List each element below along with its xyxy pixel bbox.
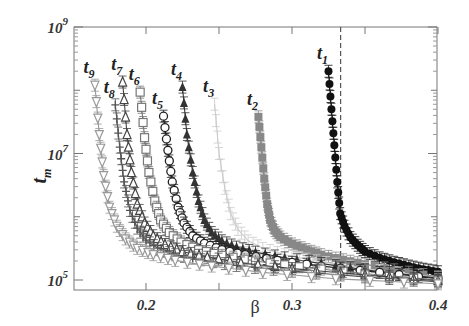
series-label-t3: t3 [203, 76, 214, 100]
marker-open-triangle-down [102, 182, 110, 191]
marker-filled-circle [329, 129, 337, 137]
marker-filled-square [254, 113, 262, 121]
series-label-t6: t6 [129, 64, 140, 88]
error-bar [212, 115, 220, 127]
marker-plus [117, 155, 125, 163]
error-bar [219, 171, 227, 183]
marker-open-triangle [126, 155, 134, 164]
series-t1 [325, 65, 443, 278]
marker-plus [114, 129, 122, 137]
marker-open-square [145, 168, 153, 176]
error-bar [223, 191, 231, 203]
x-tick-label: 0.2 [137, 297, 156, 313]
marker-filled-square [256, 133, 264, 141]
marker-open-circle [165, 157, 173, 165]
marker-open-square [143, 157, 151, 165]
marker-open-triangle-down [92, 98, 100, 107]
marker-open-circle [160, 112, 168, 120]
marker-open-square [138, 103, 146, 111]
marker-open-triangle-down [100, 172, 108, 181]
x-axis-title: β [250, 297, 259, 317]
marker-filled-triangle [189, 167, 197, 176]
series-label-t9: t9 [83, 57, 94, 81]
series-label-t1: t1 [317, 43, 328, 67]
marker-open-square [136, 88, 144, 96]
marker-plus [111, 101, 119, 109]
x-tick-label: 0.4 [429, 297, 448, 313]
marker-open-circle [162, 135, 170, 143]
svg-text:tm: tm [28, 169, 54, 184]
series-label-t2: t2 [247, 89, 258, 113]
error-bar [244, 235, 252, 247]
marker-plus [122, 187, 130, 195]
marker-open-triangle [120, 95, 128, 104]
marker-filled-circle [325, 67, 333, 75]
marker-plus [119, 166, 127, 174]
marker-plus [120, 178, 128, 186]
marker-filled-triangle [179, 82, 187, 91]
marker-open-circle [161, 124, 169, 132]
y-tick-label: 107 [48, 142, 69, 163]
marker-filled-circle [325, 80, 333, 88]
marker-open-triangle [122, 112, 130, 121]
marker-open-triangle-down [95, 131, 103, 140]
marker-filled-circle [326, 93, 334, 101]
y-axis-title: tm [28, 169, 54, 184]
marker-open-triangle [127, 167, 135, 176]
marker-filled-circle [335, 199, 343, 207]
marker-open-triangle-down [97, 144, 105, 153]
marker-open-triangle-down [91, 81, 99, 90]
marker-filled-circle [328, 117, 336, 125]
series-line [329, 71, 439, 272]
marker-filled-square [258, 154, 266, 162]
marker-filled-circle [333, 178, 341, 186]
marker-open-triangle [123, 130, 131, 139]
series-label-t5: t5 [152, 88, 163, 112]
marker-filled-circle [330, 141, 338, 149]
series-label-t8: t8 [104, 77, 115, 101]
error-bar [221, 182, 229, 194]
marker-open-triangle-down [104, 193, 112, 202]
chart-root: 105107109 0.20.30.4 t1t2t3t4t5t6t7t8t9 β… [0, 0, 469, 326]
y-tick-label: 109 [48, 15, 69, 36]
marker-filled-triangle [185, 142, 193, 151]
series-line [258, 117, 438, 277]
marker-open-square [139, 119, 147, 127]
marker-filled-circle [332, 166, 340, 174]
series-group [91, 65, 442, 290]
marker-filled-triangle [181, 114, 189, 123]
error-bar [225, 199, 233, 211]
marker-filled-triangle [183, 130, 191, 139]
marker-open-square [141, 134, 149, 142]
marker-filled-square [257, 143, 265, 151]
error-bar [237, 227, 245, 239]
y-tick-label: 105 [48, 268, 69, 289]
marker-open-triangle [131, 189, 139, 198]
marker-open-circle [164, 146, 172, 154]
marker-filled-circle [334, 189, 342, 197]
marker-open-triangle [124, 142, 132, 151]
marker-open-triangle-down [94, 114, 102, 123]
error-bar [214, 131, 222, 143]
marker-plus [113, 115, 121, 123]
marker-filled-triangle [180, 98, 188, 107]
marker-open-triangle [129, 178, 137, 187]
marker-open-triangle-down [98, 158, 106, 167]
series-label-t4: t4 [171, 59, 182, 83]
error-bar [215, 148, 223, 160]
x-tick-label: 0.3 [283, 297, 302, 313]
marker-open-square [149, 187, 157, 195]
marker-open-square [142, 145, 150, 153]
marker-open-square [147, 178, 155, 186]
marker-filled-triangle [187, 155, 195, 164]
marker-filled-circle [331, 154, 339, 162]
marker-filled-square [255, 123, 263, 131]
marker-filled-square [259, 164, 267, 172]
marker-open-triangle [119, 77, 127, 86]
marker-filled-circle [327, 105, 335, 113]
error-bar [241, 231, 249, 243]
marker-plus [116, 143, 124, 151]
marker-open-circle [167, 167, 175, 175]
error-bar [217, 159, 225, 171]
series-label-t7: t7 [111, 54, 123, 78]
